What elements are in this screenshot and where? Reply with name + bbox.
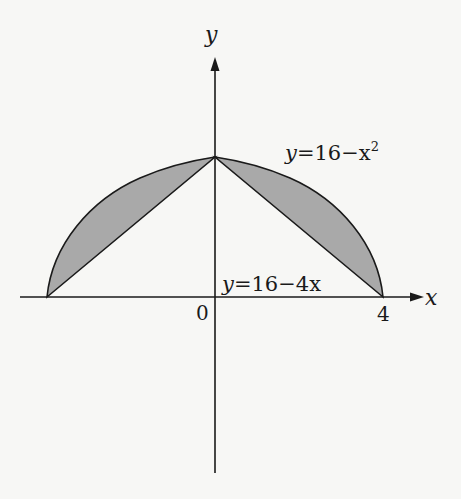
region-diagram: y x 0 4 y=16−x2 y=16−4x — [0, 0, 461, 499]
parabola-label: y=16−x2 — [284, 139, 379, 165]
line-label: y=16−4x — [221, 272, 321, 296]
x-axis-label: x — [425, 285, 438, 310]
x-axis-arrow-icon — [410, 293, 424, 302]
shaded-region-left — [47, 157, 215, 297]
y-axis-arrow-icon — [211, 57, 220, 71]
origin-label: 0 — [196, 301, 209, 325]
y-axis-label: y — [204, 22, 218, 47]
x-tick-4-label: 4 — [377, 302, 390, 326]
